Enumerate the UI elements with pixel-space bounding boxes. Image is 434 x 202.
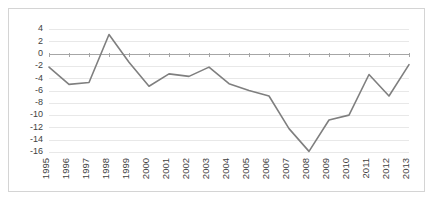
x-axis-tick-label: 1999 xyxy=(120,158,131,179)
y-axis-tick-label: -16 xyxy=(30,146,43,156)
x-axis-tick-label: 2009 xyxy=(320,158,331,179)
x-axis-tick-label: 2005 xyxy=(240,158,251,179)
x-axis-tick-label: 2011 xyxy=(360,158,371,178)
x-axis-tick-label: 1995 xyxy=(40,158,51,179)
data-line xyxy=(49,35,409,152)
x-axis-tick-label: 1998 xyxy=(100,158,111,179)
x-axis-tick-label: 2000 xyxy=(140,158,151,179)
y-axis-tick-label: -10 xyxy=(30,109,43,119)
zero-axis-line xyxy=(49,53,410,57)
y-axis-tick-label: 0 xyxy=(38,48,43,58)
y-axis-tick-label: -12 xyxy=(30,122,43,132)
x-axis-tick-label: 2007 xyxy=(280,158,291,179)
data-series-group xyxy=(49,35,409,152)
x-axis-tick-label: 2010 xyxy=(340,158,351,179)
y-axis-tick-label: 2 xyxy=(38,36,43,46)
x-axis-tick-label: 2012 xyxy=(380,158,391,179)
x-axis-tick-label: 1996 xyxy=(60,158,71,179)
x-axis-tick-label: 2002 xyxy=(180,158,191,179)
chart-container: 420-2-4-6-8-10-12-14-16 1995199619971998… xyxy=(8,8,425,192)
x-axis-tick-label: 2006 xyxy=(260,158,271,179)
x-axis-tick-label: 1997 xyxy=(80,158,91,179)
y-axis-tick-label: -4 xyxy=(35,73,43,83)
y-axis-tick-label: 4 xyxy=(38,23,43,33)
line-chart: 420-2-4-6-8-10-12-14-16 1995199619971998… xyxy=(9,9,426,193)
y-axis-tick-label: -2 xyxy=(35,60,43,70)
y-axis-tick-label: -6 xyxy=(35,85,43,95)
y-axis-tick-label: -8 xyxy=(35,97,43,107)
x-axis-tick-label: 2013 xyxy=(400,158,411,179)
x-axis-tick-label: 2001 xyxy=(160,158,171,179)
x-axis-tick-label: 2003 xyxy=(200,158,211,179)
x-axis-tick-label: 2008 xyxy=(300,158,311,179)
x-axis-tick-label: 2004 xyxy=(220,158,231,179)
x-axis-tick-labels: 1995199619971998199920002001200220032004… xyxy=(40,158,411,179)
y-axis-tick-labels: 420-2-4-6-8-10-12-14-16 xyxy=(30,23,43,156)
y-axis-tick-label: -14 xyxy=(30,134,43,144)
